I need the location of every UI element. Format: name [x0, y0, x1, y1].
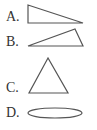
option-b-obtuse-triangle: [28, 29, 83, 46]
option-d-ellipse: [28, 108, 82, 118]
option-c-isosceles-triangle: [29, 58, 68, 93]
option-a-right-triangle: [28, 5, 83, 23]
shapes-figure: [0, 0, 97, 130]
